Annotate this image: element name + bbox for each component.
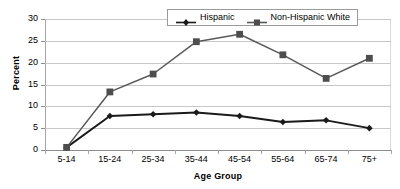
data-point-diamond	[323, 117, 330, 124]
x-axis-tick-mark	[305, 150, 306, 154]
data-point-square	[106, 89, 113, 96]
data-point-diamond	[366, 125, 373, 132]
x-axis-tick-label: 75+	[344, 154, 394, 164]
series-1	[63, 109, 372, 151]
legend-entry-non-hispanic-white[interactable]: Non-Hispanic White	[246, 13, 351, 22]
y-axis-title: Percent	[11, 43, 21, 103]
x-axis-tick-mark	[88, 150, 89, 154]
x-axis-tick-mark	[218, 150, 219, 154]
square-marker-icon	[246, 13, 268, 22]
x-axis-tick-mark	[348, 150, 349, 154]
legend-entry-hispanic[interactable]: Hispanic	[175, 13, 235, 22]
series-line	[67, 112, 370, 147]
chart-legend: Hispanic Non-Hispanic White	[167, 9, 358, 26]
data-point-diamond	[280, 119, 287, 126]
x-axis-tick-mark	[45, 150, 46, 154]
x-axis-tick-mark	[132, 150, 133, 154]
data-point-diamond	[236, 113, 243, 120]
data-point-square	[193, 38, 200, 45]
y-axis-tick-label: 30	[8, 14, 38, 23]
chart-container: Percent 051015202530 5-1415-2425-3435-44…	[0, 0, 400, 189]
data-point-square	[150, 71, 157, 78]
x-axis-tick-mark	[391, 150, 392, 154]
data-point-square	[236, 31, 243, 38]
data-point-diamond	[150, 111, 157, 118]
y-axis-tick-label: 15	[8, 80, 38, 89]
y-axis-tick-label: 20	[8, 58, 38, 67]
y-axis-tick-label: 25	[8, 36, 38, 45]
legend-label-non-hispanic-white: Non-Hispanic White	[271, 13, 351, 22]
data-point-square	[323, 75, 330, 82]
data-point-square	[279, 51, 286, 58]
data-series-layer	[45, 19, 391, 150]
diamond-marker-icon	[175, 13, 197, 22]
x-axis-tick-mark	[261, 150, 262, 154]
legend-label-hispanic: Hispanic	[200, 13, 235, 22]
x-axis-title: Age Group	[45, 171, 391, 181]
x-axis-tick-mark	[175, 150, 176, 154]
y-axis-tick-label: 5	[8, 123, 38, 132]
data-point-square	[366, 55, 373, 62]
y-axis-tick-label: 10	[8, 101, 38, 110]
data-point-diamond	[193, 109, 200, 116]
y-axis-tick-label: 0	[8, 145, 38, 154]
data-point-square	[63, 144, 70, 151]
series-2	[63, 31, 373, 151]
